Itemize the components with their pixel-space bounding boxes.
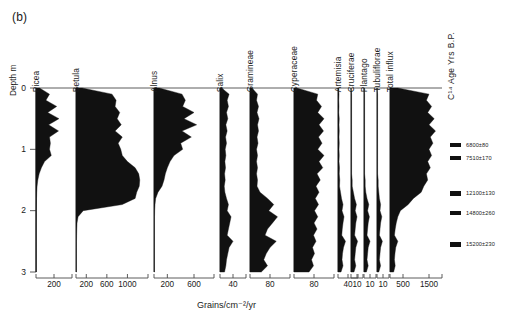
x-tick-label: 1000 [118,280,136,289]
x-tick-label: 600 [187,280,201,289]
taxon-curve-cyperaceae [294,88,324,272]
taxon-curve-gramineae [250,88,278,272]
x-tick-label: 200 [79,280,93,289]
taxon-label-betula: Betula [71,68,79,92]
taxon-label-total-influx: Total influx [385,51,393,92]
taxon-label-gramineae: Gramineae [245,50,253,92]
radiocarbon-date-label: 12100±130 [466,190,495,196]
radiocarbon-date-row: 14800±260 [450,210,495,216]
date-marker-icon [450,156,461,161]
radiocarbon-date-row: 6800±80 [450,142,488,148]
taxon-label-salix: Salix [215,74,223,93]
taxon-curve-betula [76,88,140,272]
date-marker-icon [450,143,461,148]
x-tick-label: 200 [47,280,61,289]
taxon-curve-plantago [364,88,370,272]
radiocarbon-date-label: 14800±260 [466,210,495,216]
x-tick-label: 40 [228,280,237,289]
x-tick-label: 600 [100,280,114,289]
depth-tick-label: 2 [12,205,26,215]
taxon-label-plantago: Plantago [359,58,367,92]
depth-tick-label: 3 [12,267,26,277]
x-tick-label: 1500 [420,280,438,289]
taxon-curve-salix [220,88,233,272]
taxon-label-artemisia: Artemisia [333,56,341,92]
c14-axis-caption: C¹⁴ Age Yrs B.P. [446,32,456,100]
x-tick-label: 40 [343,280,352,289]
radiocarbon-date-row: 12100±130 [450,190,495,196]
radiocarbon-date-row: 7510±170 [450,155,492,161]
x-tick-label: 500 [396,280,410,289]
x-tick-label: 10 [352,280,361,289]
taxon-curve-cruciferae [351,88,358,272]
x-tick-label: 10 [378,280,387,289]
x-axis-caption: Grains/cm⁻²/yr [197,300,256,310]
x-tick-label: 80 [265,280,274,289]
date-marker-icon [450,191,461,196]
taxon-label-alnus: Alnus [149,71,157,93]
x-tick-label: 200 [160,280,174,289]
date-marker-icon [450,242,461,247]
x-tick-label: 80 [309,280,318,289]
taxon-label-cyperaceae: Cyperaceae [289,46,297,92]
radiocarbon-date-label: 15200±230 [466,241,495,247]
radiocarbon-date-row: 15200±230 [450,241,495,247]
taxon-label-picea: Picea [31,71,39,93]
date-marker-icon [450,211,461,216]
taxon-curve-tubuliflorae [377,88,382,272]
taxon-curve-artemisia [338,88,346,272]
depth-tick-label: 1 [12,144,26,154]
radiocarbon-date-label: 7510±170 [466,155,492,161]
taxon-curve-alnus [154,88,197,272]
taxon-curve-total-influx [390,88,436,272]
radiocarbon-date-label: 6800±80 [466,142,488,148]
depth-tick-label: 0 [12,83,26,93]
taxon-label-cruciferae: Cruciferae [346,53,354,93]
taxon-label-tubuliflorae: Tubuliflorae [372,47,380,92]
pollen-influx-figure: (b) PiceaBetulaAlnusSalixGramineaeCypera… [0,0,510,332]
x-tick-label: 10 [365,280,374,289]
taxon-curve-picea [36,88,59,272]
